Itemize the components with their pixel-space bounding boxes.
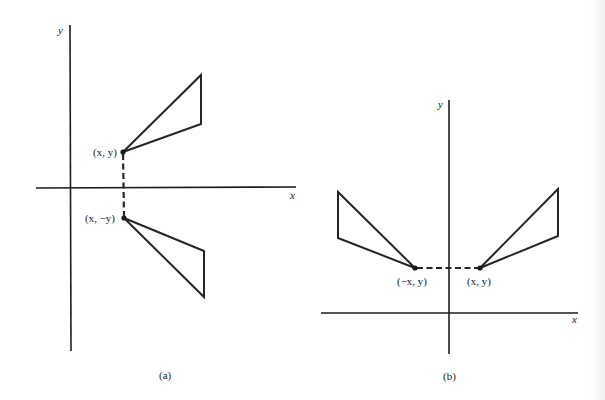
panel-a-reflection-connector — [123, 154, 124, 216]
panel-a-x-axis — [36, 187, 296, 188]
panel-a-original-triangle — [123, 75, 201, 152]
panel-b-point-reflected-label: (−x, y) — [397, 275, 427, 288]
panel-a-x-axis-label: x — [289, 189, 295, 201]
panel-b-x-axis-label: x — [571, 313, 577, 325]
panel-b-point-original — [477, 265, 482, 270]
panel-b-y-axis-label: y — [437, 98, 443, 110]
panel-a-point-original-label: (x, y) — [93, 146, 117, 159]
panel-a-caption: (a) — [159, 369, 172, 382]
figure-canvas: y x (x, y) (x, −y) (a) y x (−x, y) (x, y… — [0, 0, 605, 400]
panel-a: y x (x, y) (x, −y) (a) — [36, 24, 296, 382]
panel-a-point-original — [120, 149, 125, 154]
panel-b-original-triangle — [480, 189, 558, 268]
panel-a-reflected-triangle — [124, 218, 204, 297]
panel-b-point-reflected — [412, 265, 417, 270]
panel-b-caption: (b) — [443, 370, 456, 383]
panel-b-point-original-label: (x, y) — [467, 275, 491, 288]
panel-a-point-reflected — [121, 215, 126, 220]
panel-a-point-reflected-label: (x, −y) — [85, 212, 115, 225]
figure-reflections: y x (x, y) (x, −y) (a) y x (−x, y) (x, y… — [0, 0, 605, 400]
panel-a-y-axis-label: y — [57, 24, 63, 36]
panel-b-reflected-triangle — [338, 192, 415, 268]
panel-b: y x (−x, y) (x, y) (b) — [321, 98, 578, 383]
